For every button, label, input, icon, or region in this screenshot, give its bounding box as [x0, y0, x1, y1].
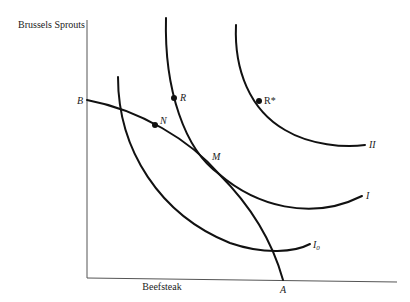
- label-n: N: [159, 115, 168, 126]
- indifference-curve-ii: [236, 25, 365, 146]
- label-b: B: [77, 95, 83, 106]
- label-a: A: [279, 284, 287, 295]
- point-n: [152, 122, 158, 128]
- x-axis: [87, 278, 397, 282]
- x-axis-label: Beefsteak: [142, 281, 181, 292]
- label-m: M: [211, 151, 221, 162]
- y-axis-label: Brussels Sprouts: [18, 19, 85, 30]
- label-curve-i0-sub: 0: [316, 244, 320, 252]
- label-r-star: R*: [264, 95, 276, 106]
- label-curve-i0: I0: [312, 239, 320, 252]
- point-r: [171, 95, 177, 101]
- label-r: R: [179, 92, 186, 103]
- point-r-star: [256, 98, 262, 104]
- indifference-curve-i0: [118, 77, 310, 251]
- label-curve-i: I: [365, 190, 370, 201]
- indifference-diagram: Brussels Sprouts Beefsteak B A N M R R* …: [0, 0, 410, 302]
- label-curve-ii: II: [368, 139, 376, 150]
